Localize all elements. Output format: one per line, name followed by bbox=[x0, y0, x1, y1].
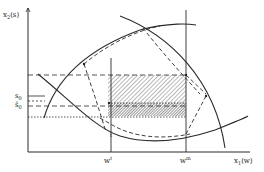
w-high-label: wm bbox=[180, 155, 191, 165]
economics-diagram: x2(s) x1(w) wℓ wm s0 ŝ0 t bbox=[0, 0, 264, 172]
x-axis-label: x1(w) bbox=[234, 157, 253, 166]
w-low-label: wℓ bbox=[104, 155, 112, 165]
hatched-region bbox=[108, 75, 186, 116]
s0-hat-label: ŝ0 bbox=[15, 101, 22, 110]
y-axis-label: x2(s) bbox=[3, 11, 19, 20]
point-t-label: t bbox=[110, 132, 112, 138]
s0-label: s0 bbox=[15, 92, 22, 101]
